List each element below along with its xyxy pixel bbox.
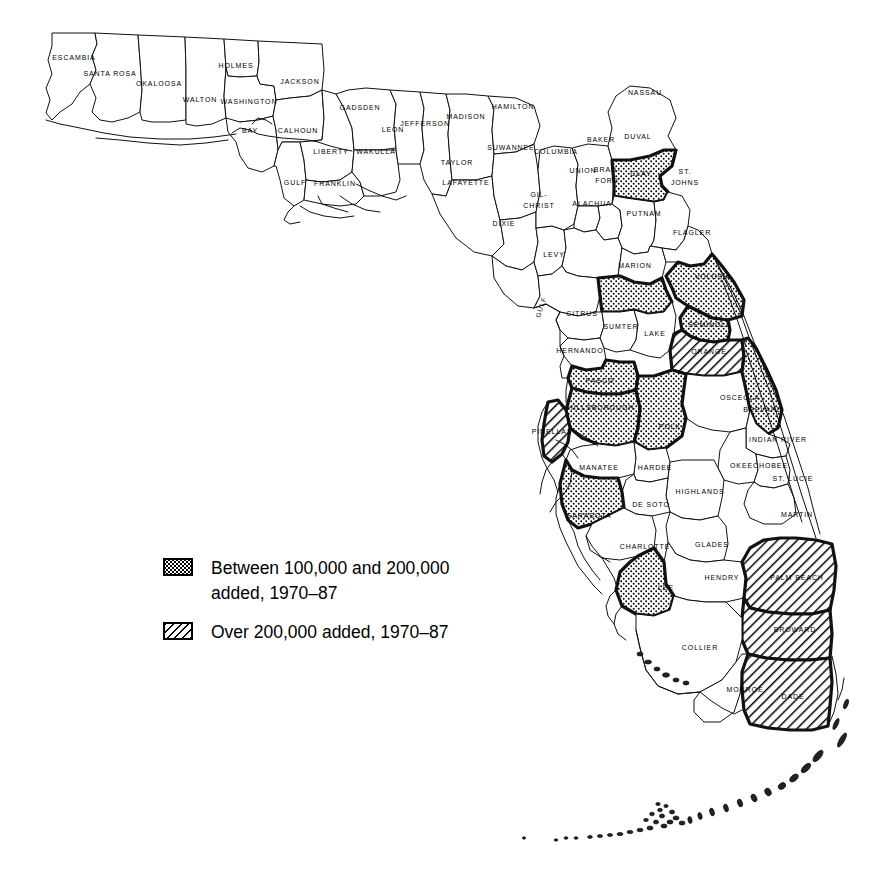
map-legend: Between 100,000 and 200,000 added, 1970–…: [163, 556, 493, 659]
county-hillsborough[interactable]: [566, 388, 640, 446]
county-columbia[interactable]: [536, 146, 578, 230]
region-panhandle: [46, 33, 614, 308]
county-palm-beach[interactable]: [742, 538, 836, 614]
legend-line-1: Over 200,000 added, 1970–87: [211, 622, 448, 642]
county-suwannee[interactable]: [492, 144, 540, 220]
legend-swatch-hatch: [163, 622, 193, 640]
legend-item-over-200k: Over 200,000 added, 1970–87: [163, 620, 493, 645]
legend-label-stipple: Between 100,000 and 200,000 added, 1970–…: [211, 556, 449, 606]
county-label-st-johns: ST.: [679, 168, 692, 175]
county-volusia[interactable]: [666, 254, 744, 320]
florida-county-map: ESCAMBIASANTA ROSAOKALOOSAWALTONHOLMESWA…: [0, 0, 892, 875]
county-polk[interactable]: [634, 370, 686, 450]
county-label-st-johns-line2: JOHNS: [671, 179, 699, 186]
florida-keys: [522, 749, 824, 841]
county-jefferson[interactable]: [420, 92, 452, 196]
county-marion[interactable]: [598, 276, 672, 314]
county-citrus[interactable]: [556, 312, 604, 340]
legend-item-100k-200k: Between 100,000 and 200,000 added, 1970–…: [163, 556, 493, 606]
county-st-lucie[interactable]: [754, 454, 790, 488]
county-baker[interactable]: [572, 144, 614, 206]
county-gulf[interactable]: [274, 142, 306, 206]
county-santa-rosa[interactable]: [90, 33, 142, 122]
county-dade[interactable]: [742, 654, 832, 730]
florida-map-container: ESCAMBIASANTA ROSAOKALOOSAWALTONHOLMESWA…: [0, 0, 892, 875]
county-highlands[interactable]: [666, 460, 724, 520]
county-madison[interactable]: [446, 94, 494, 180]
county-walton[interactable]: [185, 37, 226, 126]
county-pinellas[interactable]: [542, 400, 570, 462]
legend-line-1: Between 100,000 and 200,000: [211, 558, 449, 578]
county-okaloosa[interactable]: [138, 35, 186, 122]
county-hernando[interactable]: [560, 338, 606, 370]
county-martin[interactable]: [744, 482, 796, 524]
county-union[interactable]: [574, 206, 600, 232]
legend-line-2: added, 1970–87: [211, 581, 449, 606]
county-holmes[interactable]: [224, 39, 259, 77]
legend-label-hatch: Over 200,000 added, 1970–87: [211, 620, 448, 645]
county-escambia[interactable]: [46, 33, 97, 120]
county-osceola[interactable]: [682, 372, 750, 432]
legend-swatch-stipple: [163, 558, 193, 576]
